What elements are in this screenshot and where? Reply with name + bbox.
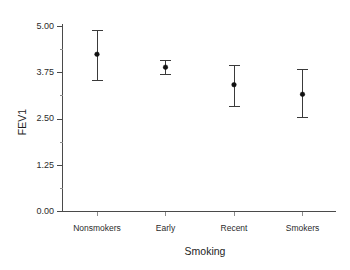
data-point-nonsmokers [92, 31, 103, 81]
data-point-recent [229, 65, 240, 106]
marker-recent [232, 82, 237, 87]
y-tick-label-375: 3.75 [36, 67, 54, 77]
x-tick-label-recent: Recent [221, 223, 249, 233]
data-point-early [160, 60, 171, 74]
y-tick-label-125: 1.25 [36, 160, 54, 170]
x-tick-label-smokers: Smokers [286, 223, 320, 233]
x-tick-label-early: Early [156, 223, 176, 233]
errorbar-plot: 5.00 3.75 2.50 1.25 0.00 Nonsmokers Earl… [0, 0, 350, 270]
y-tick-label-000: 0.00 [36, 206, 54, 216]
x-tick-label-nonsmokers: Nonsmokers [73, 223, 121, 233]
y-tick-label-500: 5.00 [36, 21, 54, 31]
data-point-smokers [297, 69, 308, 117]
y-axis-title: FEV1 [16, 109, 28, 135]
y-tick-label-250: 2.50 [36, 113, 54, 123]
x-axis-title: Smoking [185, 245, 226, 257]
chart-figure: 5.00 3.75 2.50 1.25 0.00 Nonsmokers Earl… [0, 0, 350, 270]
marker-nonsmokers [95, 52, 100, 57]
marker-early [163, 65, 168, 70]
marker-smokers [300, 92, 305, 97]
